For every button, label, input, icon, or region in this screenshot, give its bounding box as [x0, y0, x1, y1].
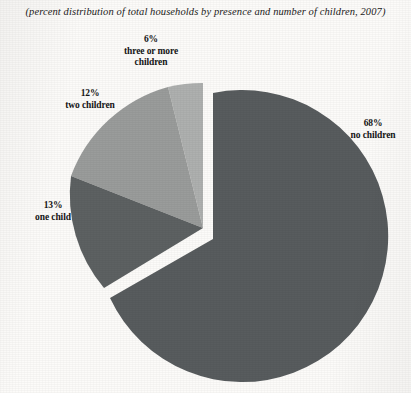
slice-name-three-or-more-line2: children	[96, 57, 206, 69]
slice-label-three-or-more: 6% three or more children	[96, 34, 206, 69]
slice-name-one-child: one child	[0, 212, 108, 224]
chart-plot-area: 6% three or more children 12% two childr…	[0, 0, 411, 393]
pie-chart-figure: (percent distribution of total household…	[0, 0, 411, 393]
slice-name-three-or-more-line1: three or more	[96, 46, 206, 58]
slice-name-no-children: no children	[336, 130, 410, 142]
slice-label-two-children: 12% two children	[34, 88, 146, 111]
slice-pct-no-children: 68%	[336, 118, 410, 130]
slice-label-no-children: 68% no children	[336, 118, 410, 141]
slice-pct-one-child: 13%	[0, 200, 108, 212]
slice-name-two-children: two children	[34, 100, 146, 112]
slice-label-one-child: 13% one child	[0, 200, 108, 223]
slice-pct-two-children: 12%	[34, 88, 146, 100]
slice-pct-three-or-more: 6%	[96, 34, 206, 46]
